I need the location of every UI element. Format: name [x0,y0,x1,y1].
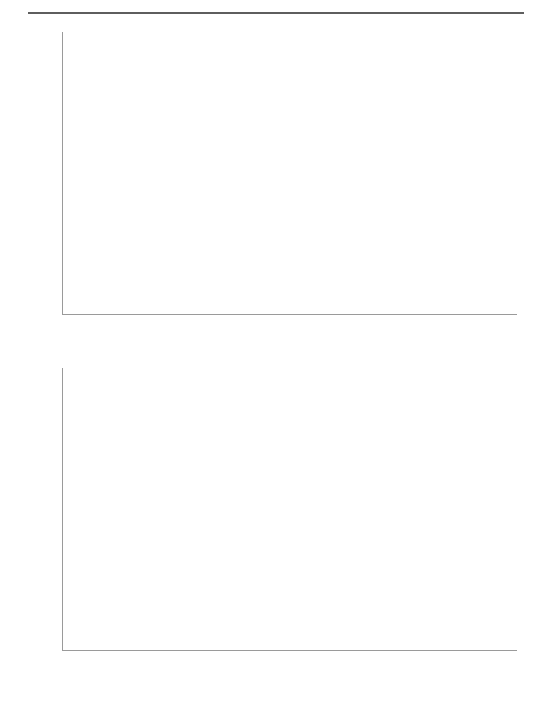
plot-area-bottom [62,368,517,651]
plot-area-top [62,32,517,315]
scatter-chart-top [0,22,553,372]
plot-wrap-bottom [62,368,517,651]
y-axis-line-bottom [62,368,63,651]
figure-page [0,0,553,723]
running-head [0,0,553,12]
x-axis-line-top [62,314,517,315]
plot-wrap-top [62,32,517,315]
y-axis-line-top [62,32,63,315]
header-rule [28,12,524,14]
x-axis-line-bottom [62,650,517,651]
scatter-chart-bottom [0,358,553,718]
